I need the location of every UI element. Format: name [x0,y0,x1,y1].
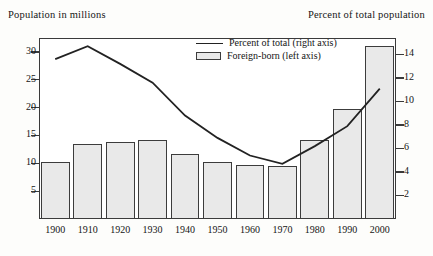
x-axis-label-1900: 1900 [39,224,71,235]
right-tick-label-10: 10 [404,94,414,105]
left-axis-title: Population in millions [8,9,106,20]
left-tick-label-10: 10 [26,156,36,167]
x-axis-label-1990: 1990 [331,224,363,235]
right-tick-label-8: 8 [404,118,409,129]
right-tick-label-14: 14 [404,47,414,58]
x-axis-label-1960: 1960 [234,224,266,235]
right-tick-mark-14 [396,54,404,55]
right-tick-mark-10 [396,101,404,102]
x-axis-label-1950: 1950 [201,224,233,235]
chart-canvas: Population in millions Percent of total … [0,0,433,256]
chart-legend: Percent of total (right axis)Foreign-bor… [196,37,337,63]
legend-label: Foreign-born (left axis) [227,50,321,62]
line-series-percent-of-total [39,38,396,219]
left-tick-label-25: 25 [26,73,36,84]
legend-label: Percent of total (right axis) [229,37,337,49]
right-tick-mark-6 [396,148,404,149]
right-axis-title: Percent of total population [308,9,425,20]
right-tick-label-6: 6 [404,141,409,152]
legend-item-2: Foreign-born (left axis) [196,50,337,62]
right-tick-mark-4 [396,171,404,172]
x-axis-label-1980: 1980 [299,224,331,235]
right-tick-mark-12 [396,77,404,78]
x-axis-label-1910: 1910 [71,224,103,235]
x-axis-label-1940: 1940 [169,224,201,235]
legend-item-1: Percent of total (right axis) [196,37,337,49]
legend-line-icon [196,43,223,44]
left-tick-label-15: 15 [26,128,36,139]
right-tick-label-4: 4 [404,165,409,176]
right-tick-mark-2 [396,195,404,196]
left-tick-label-5: 5 [31,184,36,195]
x-axis-label-1970: 1970 [266,224,298,235]
x-axis-label-2000: 2000 [364,224,396,235]
x-axis-label-1930: 1930 [136,224,168,235]
right-tick-mark-8 [396,124,404,125]
left-tick-label-30: 30 [26,45,36,56]
legend-swatch-icon [196,52,221,60]
right-tick-label-2: 2 [404,188,409,199]
right-tick-label-12: 12 [404,71,414,82]
left-tick-label-20: 20 [26,101,36,112]
x-axis-label-1920: 1920 [104,224,136,235]
